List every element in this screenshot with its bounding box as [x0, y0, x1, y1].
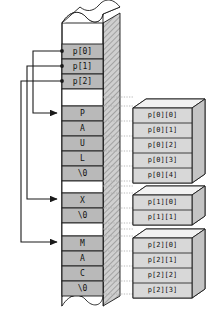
index-box-1: [133, 186, 205, 225]
index-box-2: [133, 229, 205, 298]
index-box-0: [133, 99, 205, 183]
memory-column-side-face: [103, 13, 120, 306]
string-block-mac: [62, 236, 103, 296]
diagram-canvas: p[0] p[1] p[2] P A U L \0 X \0 M A C \0 …: [0, 0, 209, 317]
pointer-arrows: [21, 49, 64, 242]
string-block-paul: [62, 106, 103, 181]
memory-gap-2: [62, 181, 103, 193]
memory-gap-3: [62, 223, 103, 236]
pointer-array-cells: [62, 44, 103, 89]
string-block-x: [62, 193, 103, 223]
memory-gap-1: [62, 89, 103, 106]
memory-diagram-svg: [0, 0, 209, 317]
